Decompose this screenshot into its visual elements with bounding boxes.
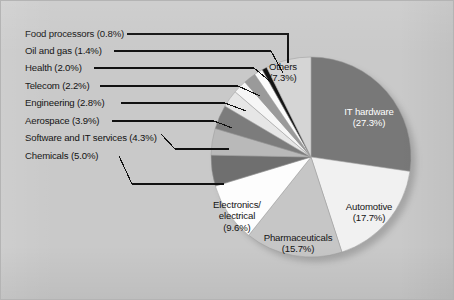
leader-line-health	[94, 68, 272, 83]
slice-label-it-hardware: IT hardware (27.3%)	[326, 106, 412, 129]
slice-label-it-hardware-percent: (27.3%)	[326, 117, 412, 128]
slice-label-pharmaceuticals: Pharmaceuticals (15.7%)	[245, 232, 351, 255]
slice-label-electronics-percent: (9.6%)	[191, 222, 283, 233]
leader-label-software-and-it-services: Software and IT services (4.3%)	[25, 132, 157, 143]
slice-label-pharmaceuticals-name: Pharmaceuticals	[245, 232, 351, 243]
slice-label-automotive-name: Automotive	[326, 201, 412, 212]
leader-line-aerospace	[112, 121, 232, 128]
slice-label-automotive-percent: (17.7%)	[326, 212, 412, 223]
pie-chart-figure: Food processors (0.8%) Oil and gas (1.4%…	[0, 0, 454, 300]
leader-line-food-processors	[127, 34, 288, 63]
slice-label-others-name: Others	[247, 61, 319, 72]
slice-label-it-hardware-name: IT hardware	[326, 106, 412, 117]
leader-line-chemicals	[119, 156, 224, 184]
leader-label-engineering: Engineering (2.8%)	[25, 97, 104, 108]
slice-label-automotive: Automotive (17.7%)	[326, 201, 412, 224]
slice-label-pharmaceuticals-percent: (15.7%)	[245, 243, 351, 254]
slice-label-electronics-line1: Electronics/	[191, 199, 283, 210]
slice-label-electronics-electrical: Electronics/ electrical (9.6%)	[191, 199, 283, 233]
leader-label-food-processors: Food processors (0.8%)	[25, 28, 124, 39]
leader-label-telecom: Telecom (2.2%)	[25, 80, 90, 91]
slice-label-electronics-line2: electrical	[191, 210, 283, 221]
slice-label-others-percent: (7.3%)	[247, 72, 319, 83]
leader-label-oil-and-gas: Oil and gas (1.4%)	[25, 45, 102, 56]
leader-label-aerospace: Aerospace (3.9%)	[25, 115, 99, 126]
leader-label-chemicals: Chemicals (5.0%)	[25, 150, 98, 161]
slice-label-others: Others (7.3%)	[247, 61, 319, 84]
leader-label-health: Health (2.0%)	[25, 62, 82, 73]
